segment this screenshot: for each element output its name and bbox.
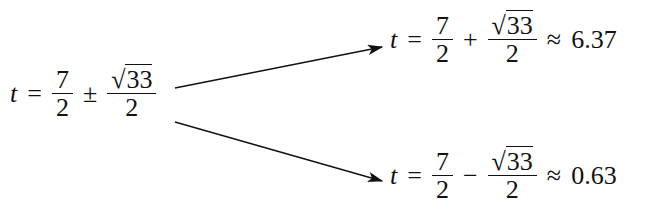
approx-sign: ≈ <box>547 161 561 191</box>
equals-sign: = <box>27 79 42 109</box>
result-value: 6.37 <box>571 25 617 55</box>
approx-sign: ≈ <box>547 25 561 55</box>
arrow-down <box>175 122 382 181</box>
plus-sign: + <box>463 25 478 55</box>
minus-sign: − <box>463 161 478 191</box>
result-value: 0.63 <box>571 161 617 191</box>
sqrt-icon: √ <box>111 65 125 94</box>
variable: t <box>10 79 17 109</box>
sqrt-icon: √ <box>492 11 506 40</box>
upper-equation: t = 7 2 + √33 2 ≈ 6.37 <box>390 12 617 68</box>
arrow-up <box>175 47 382 88</box>
plus-minus-sign: ± <box>83 79 97 109</box>
main-equation: t = 7 2 ± √33 2 <box>10 66 156 122</box>
fraction-seven-halves: 7 2 <box>52 66 73 122</box>
sqrt-icon: √ <box>492 147 506 176</box>
fraction-sqrt33-over-2: √33 2 <box>107 66 156 122</box>
lower-equation: t = 7 2 − √33 2 ≈ 0.63 <box>390 148 617 204</box>
